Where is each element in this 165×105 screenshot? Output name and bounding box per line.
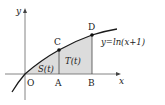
y-axis-arrow-icon xyxy=(23,8,27,13)
point-a-label: A xyxy=(54,78,62,88)
region-t xyxy=(59,35,92,74)
region-t-label: T(t) xyxy=(65,56,81,66)
diagram-canvas: y x O A B C D y=ln(x+1) S(t) T(t) xyxy=(0,0,165,105)
point-c-label: C xyxy=(54,37,61,47)
point-d-label: D xyxy=(88,22,95,32)
region-s-label: S(t) xyxy=(38,64,54,74)
x-axis-label: x xyxy=(119,76,124,86)
point-b-label: B xyxy=(88,78,95,88)
point-d-dot xyxy=(90,33,94,37)
curve-equation-label: y=ln(x+1) xyxy=(100,37,145,47)
y-axis-label: y xyxy=(15,6,22,16)
point-c-dot xyxy=(57,48,61,52)
ln-curve-diagram: y x O A B C D y=ln(x+1) S(t) T(t) xyxy=(0,0,165,105)
origin-label: O xyxy=(27,78,34,88)
